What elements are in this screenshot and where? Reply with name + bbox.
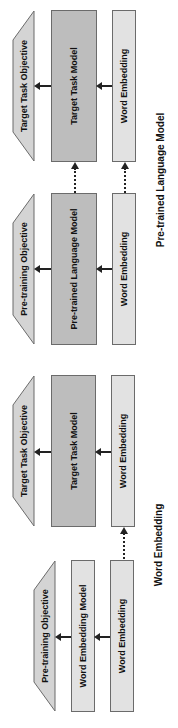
embedding-label: Word Embedding xyxy=(119,49,129,123)
word-embedding-box: Word Embedding xyxy=(110,560,134,712)
word-embedding-box: Word Embedding xyxy=(111,375,135,527)
embedding-label: Word Embedding xyxy=(118,414,128,488)
arrow-model-to-objective xyxy=(60,636,71,638)
arrow-embedding-to-model xyxy=(100,451,111,453)
arrow-embedding-to-model xyxy=(99,636,110,638)
word-embedding-model-box: Word Embedding Model xyxy=(71,560,95,712)
model-label: Word Embedding Model xyxy=(78,585,88,688)
embedding-label: Word Embedding xyxy=(117,599,127,673)
transfer-arrow-embedding xyxy=(124,168,126,193)
objective-label: Target Task Objective xyxy=(19,405,29,497)
arrow-embedding-to-model xyxy=(101,268,112,270)
objective-label: Pre-training Objective xyxy=(40,589,50,683)
arrow-embedding-to-model xyxy=(101,85,112,87)
group-caption: Pre-trained Language Model xyxy=(155,113,166,247)
group-caption: Word Embedding xyxy=(153,504,164,587)
arrow-model-to-objective xyxy=(39,85,51,87)
word-embedding-box: Word Embedding xyxy=(112,10,136,162)
objective-label: Target Task Objective xyxy=(19,40,29,132)
model-label: Pre-trained Language Model xyxy=(69,208,79,329)
model-label: Target Task Model xyxy=(69,47,79,125)
embedding-label: Word Embedding xyxy=(119,232,129,306)
word-embedding-box: Word Embedding xyxy=(112,193,136,345)
target-task-model-box: Target Task Model xyxy=(51,10,97,162)
objective-label: Pre-training Objective xyxy=(19,222,29,316)
transfer-arrow-embedding xyxy=(123,533,125,559)
model-label: Target Task Model xyxy=(69,412,79,490)
target-task-objective-shape: Target Task Objective xyxy=(12,10,35,162)
target-task-model-box: Target Task Model xyxy=(51,375,96,527)
arrow-model-to-objective xyxy=(39,451,51,453)
transfer-arrow-model xyxy=(74,168,76,193)
pretraining-objective-shape: Pre-training Objective xyxy=(33,560,56,712)
target-task-objective-shape: Target Task Objective xyxy=(12,375,35,527)
pretraining-objective-shape: Pre-training Objective xyxy=(12,193,35,345)
arrow-model-to-objective xyxy=(39,268,51,270)
pretrained-language-model-box: Pre-trained Language Model xyxy=(51,193,97,345)
